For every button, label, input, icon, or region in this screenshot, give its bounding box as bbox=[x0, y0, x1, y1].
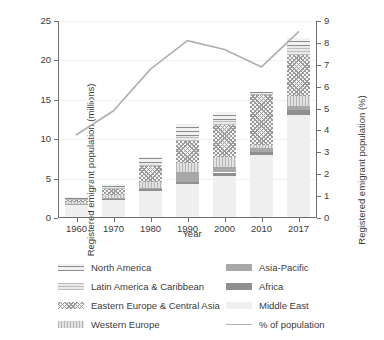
bar-segment-eastern-europe bbox=[139, 166, 162, 183]
gridline bbox=[59, 21, 316, 22]
y-axis-right-tick-label: 6 bbox=[324, 82, 329, 92]
bar-segment-north-america bbox=[102, 184, 125, 188]
y-axis-left-tick-label: 20 bbox=[40, 56, 51, 66]
x-axis-tick-label: 2017 bbox=[288, 224, 309, 234]
y-axis-right-tick bbox=[317, 109, 321, 110]
legend-item-pct-of-population[interactable]: % of population bbox=[226, 320, 376, 330]
bar-segment-western-europe bbox=[287, 96, 310, 107]
legend-label: % of population bbox=[259, 320, 325, 330]
bar-1980 bbox=[139, 157, 162, 217]
bar-segment-middle-east bbox=[250, 155, 273, 217]
legend-swatch-icon-eastern-europe bbox=[58, 302, 84, 309]
legend-label: Western Europe bbox=[91, 320, 159, 330]
bar-segment-north-america bbox=[139, 157, 162, 163]
bar-segment-middle-east bbox=[102, 200, 125, 217]
legend-label: Latin America & Caribbean bbox=[91, 282, 204, 292]
bar-segment-middle-east bbox=[287, 115, 310, 217]
chart-legend: North AmericaAsia-PacificLatin America &… bbox=[58, 258, 376, 334]
bar-segment-eastern-europe bbox=[65, 200, 88, 202]
x-axis-tick-label: 1990 bbox=[177, 224, 198, 234]
bar-segment-asia-pacific bbox=[102, 198, 125, 199]
legend-item-asia-pacific[interactable]: Asia-Pacific bbox=[226, 263, 376, 273]
y-axis-left-tick bbox=[54, 100, 58, 101]
bar-segment-western-europe bbox=[65, 202, 88, 204]
y-axis-left-tick bbox=[54, 218, 58, 219]
bar-2017 bbox=[287, 38, 310, 217]
y-axis-left-tick-label: 5 bbox=[46, 174, 51, 184]
plot-area: 0510152025 0123456789 196019701980199020… bbox=[58, 21, 317, 218]
bar-segment-latin-america bbox=[213, 120, 236, 125]
gridline bbox=[59, 60, 316, 61]
bar-2000 bbox=[213, 112, 236, 217]
x-axis-tick-label: 2000 bbox=[214, 224, 235, 234]
bar-segment-north-america bbox=[250, 92, 273, 94]
bar-segment-north-america bbox=[176, 124, 199, 137]
bar-1960 bbox=[65, 197, 88, 217]
bar-segment-middle-east bbox=[176, 184, 199, 217]
legend-item-western-europe[interactable]: Western Europe bbox=[58, 320, 226, 330]
y-axis-right-tick-label: 0 bbox=[324, 213, 329, 223]
x-axis-tick bbox=[299, 218, 300, 222]
y-axis-right-tick bbox=[317, 87, 321, 88]
bar-segment-africa bbox=[102, 199, 125, 200]
x-axis-tick-label: 1970 bbox=[103, 224, 124, 234]
bar-segment-western-europe bbox=[139, 182, 162, 188]
y-axis-left-tick bbox=[54, 139, 58, 140]
legend-label: Eastern Europe & Central Asia bbox=[91, 301, 220, 311]
bar-segment-eastern-europe bbox=[213, 125, 236, 157]
bar-segment-eastern-europe bbox=[102, 189, 125, 195]
x-axis-tick-label: 1980 bbox=[140, 224, 161, 234]
bar-segment-latin-america bbox=[287, 46, 310, 56]
legend-label: Africa bbox=[259, 282, 283, 292]
bar-segment-africa bbox=[65, 204, 88, 205]
bar-segment-africa bbox=[213, 173, 236, 176]
y-axis-right-tick-label: 8 bbox=[324, 38, 329, 48]
y-axis-right-tick bbox=[317, 43, 321, 44]
bar-segment-africa bbox=[139, 189, 162, 191]
gridline bbox=[59, 100, 316, 101]
legend-label: Asia-Pacific bbox=[259, 263, 309, 273]
x-axis-tick bbox=[188, 218, 189, 222]
legend-swatch-icon-middle-east bbox=[226, 302, 252, 309]
bar-segment-asia-pacific bbox=[213, 167, 236, 172]
bar-segment-north-america bbox=[287, 38, 310, 45]
legend-swatch-icon-pct-of-population bbox=[226, 324, 252, 325]
bar-segment-eastern-europe bbox=[287, 55, 310, 95]
y-axis-right-tick bbox=[317, 174, 321, 175]
y-axis-left-tick bbox=[54, 179, 58, 180]
bar-segment-latin-america bbox=[176, 136, 199, 140]
bar-segment-africa bbox=[176, 182, 199, 185]
x-axis-tick bbox=[77, 218, 78, 222]
legend-item-eastern-europe[interactable]: Eastern Europe & Central Asia bbox=[58, 301, 226, 311]
y-axis-right-tick bbox=[317, 196, 321, 197]
y-axis-right-line bbox=[316, 21, 317, 218]
y-axis-right-tick bbox=[317, 130, 321, 131]
y-axis-right-tick-label: 9 bbox=[324, 16, 329, 26]
legend-swatch-icon-western-europe bbox=[58, 321, 84, 328]
y-axis-right-tick-label: 7 bbox=[324, 60, 329, 70]
bar-segment-western-europe bbox=[250, 145, 273, 148]
legend-label: Middle East bbox=[259, 301, 309, 311]
bar-segment-africa bbox=[250, 152, 273, 156]
y-axis-left-tick-label: 15 bbox=[40, 95, 51, 105]
y-axis-left-tick-label: 10 bbox=[40, 134, 51, 144]
bar-segment-western-europe bbox=[102, 195, 125, 198]
bar-segment-western-europe bbox=[213, 157, 236, 167]
bar-1990 bbox=[176, 124, 199, 217]
y-axis-right-tick-label: 4 bbox=[324, 126, 329, 136]
legend-item-latin-america[interactable]: Latin America & Caribbean bbox=[58, 282, 226, 292]
x-axis-tick bbox=[114, 218, 115, 222]
bar-segment-latin-america bbox=[102, 187, 125, 189]
y-axis-right-tick-label: 1 bbox=[324, 191, 329, 201]
legend-item-north-america[interactable]: North America bbox=[58, 263, 226, 273]
bar-segment-middle-east bbox=[139, 191, 162, 217]
y-axis-left-tick-label: 25 bbox=[40, 16, 51, 26]
bar-segment-eastern-europe bbox=[176, 141, 199, 163]
legend-item-africa[interactable]: Africa bbox=[226, 282, 376, 292]
bar-segment-latin-america bbox=[139, 163, 162, 166]
bar-1970 bbox=[102, 184, 125, 217]
x-axis-tick-label: 1960 bbox=[66, 224, 87, 234]
legend-swatch-icon-north-america bbox=[58, 264, 84, 271]
legend-item-middle-east[interactable]: Middle East bbox=[226, 301, 376, 311]
bar-segment-asia-pacific bbox=[139, 188, 162, 189]
